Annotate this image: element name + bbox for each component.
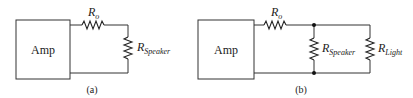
resistor-ro-a (82, 21, 104, 29)
panel-a: Amp Ro RSpeaker (a) (16, 5, 171, 96)
circuit-diagram: Amp Ro RSpeaker (a) Amp (0, 0, 413, 98)
label-rspeaker-a: RSpeaker (136, 40, 171, 56)
resistor-light-b (366, 38, 374, 60)
amp-label-a: Amp (31, 43, 55, 57)
resistor-ro-b (264, 21, 286, 29)
amp-label-b: Amp (214, 43, 238, 57)
label-ro-b: Ro (270, 5, 282, 21)
panel-b: Amp Ro RSpeaker RLight (b) (198, 5, 403, 96)
caption-a: (a) (86, 84, 97, 96)
resistor-speaker-b (310, 38, 318, 60)
junction-dot-top (312, 23, 316, 27)
resistor-speaker-a (124, 37, 132, 59)
label-rlight-b: RLight (377, 41, 403, 57)
caption-b: (b) (295, 84, 307, 96)
label-rspeaker-b: RSpeaker (321, 41, 356, 57)
label-ro-a: Ro (87, 5, 99, 21)
junction-dot-bottom (312, 71, 316, 75)
